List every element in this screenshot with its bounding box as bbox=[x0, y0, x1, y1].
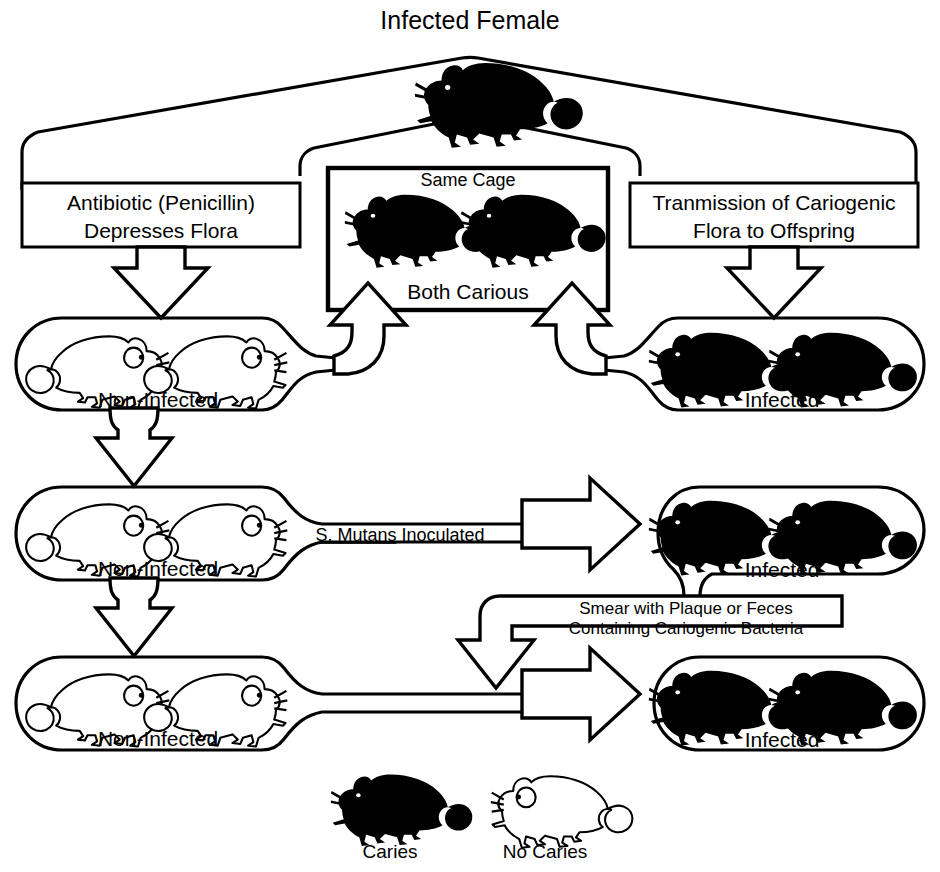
legend-no-caries-label: No Caries bbox=[503, 841, 587, 862]
left-box-line1: Antibiotic (Penicillin) bbox=[67, 191, 255, 214]
arrow-row2-left-to-row3-left bbox=[96, 578, 172, 656]
right-box-line1: Tranmission of Cariogenic bbox=[652, 191, 895, 214]
arrow-row1-left-to-row2-left bbox=[96, 408, 172, 486]
legend-caries-icon bbox=[331, 775, 472, 846]
both-carious-label: Both Carious bbox=[407, 280, 528, 303]
row3-right-label: Infected bbox=[745, 728, 820, 751]
arrow-right-box-to-row1 bbox=[727, 247, 821, 318]
inoculated-species: S. Mutans bbox=[315, 525, 396, 545]
inoculated-rest: Inoculated bbox=[396, 525, 484, 545]
legend-caries-label: Caries bbox=[363, 841, 418, 862]
smear-label-line1: Smear with Plaque or Feces bbox=[579, 599, 793, 618]
same-cage-label: Same Cage bbox=[420, 170, 515, 190]
legend: Caries No Caries bbox=[331, 775, 632, 862]
arrow-left-box-to-row1 bbox=[114, 247, 208, 318]
right-box-line2: Flora to Offspring bbox=[693, 219, 855, 242]
legend-no-caries-icon bbox=[491, 776, 632, 847]
row3-left-label: Non-Infected bbox=[98, 727, 218, 750]
row1-right-label: Infected bbox=[745, 388, 820, 411]
row2-right-label: Infected bbox=[745, 558, 820, 581]
diagram-canvas: Infected Female Antibiotic (Penicillin) … bbox=[0, 0, 940, 872]
smear-label-line2: Containing Cariogenic Bacteria bbox=[569, 619, 804, 638]
mouse-caries-transmission-diagram: Infected Female Antibiotic (Penicillin) … bbox=[0, 0, 940, 872]
left-box-line2: Depresses Flora bbox=[84, 219, 238, 242]
page-title: Infected Female bbox=[380, 6, 559, 34]
arrow-s-mutans-inoculated bbox=[522, 478, 640, 570]
inoculated-label: S. Mutans Inoculated bbox=[315, 525, 484, 545]
arrow-row3-left-to-row3-right bbox=[522, 648, 640, 740]
